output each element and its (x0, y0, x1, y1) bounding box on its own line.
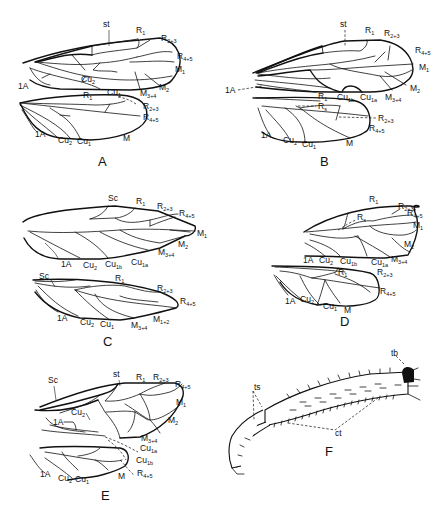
label-1a: 1A (18, 81, 29, 91)
label-c-cu1b: Cu1b (105, 259, 122, 270)
label-e-st: st (113, 369, 120, 379)
label-b-r4-5: R4+5 (415, 45, 430, 56)
label-cu1: Cu1 (107, 87, 121, 98)
label-d-r1: R1 (369, 194, 378, 205)
label-c-m2: M2 (178, 239, 188, 250)
label-hw-r2-3: R2+3 (143, 101, 158, 112)
panel-f: tb ts ct F (229, 348, 420, 474)
label-e-sc: Sc (48, 375, 59, 385)
plate-label-b: B (320, 154, 329, 169)
label-b-hw-r2-3: R2+3 (378, 113, 393, 124)
panel-d-forewing: R1 Rs R2+3 R4+5 M1 M2 M3+4 Cu1a Cu1b Cu2… (303, 194, 423, 268)
panel-e-forewing: st Sc R1 R2+3 R4+5 M1 M2 M3+4 Cu1a Cu1b … (35, 369, 190, 466)
label-ts: ts (254, 382, 261, 392)
label-c-sc: Sc (108, 193, 119, 203)
label-hw-r1: R1 (83, 90, 92, 101)
label-e-m2: M2 (168, 415, 178, 426)
label-c-hw-r4-5: R4+5 (180, 296, 195, 307)
label-e-r1: R1 (136, 372, 145, 383)
plate-label-e: E (101, 488, 110, 503)
label-cu2: Cu2 (81, 74, 95, 85)
label-r4-5: R4+5 (177, 51, 192, 62)
label-e-hw-m: M (118, 471, 125, 481)
label-tb: tb (391, 348, 398, 358)
panel-a-forewing: st R1 R2+3 R4+5 M1 M2 M3+4 Cu1 Cu2 1A (18, 19, 192, 99)
label-hw-cu1: Cu1 (77, 136, 91, 147)
label-e-hw-1a: 1A (40, 469, 51, 479)
panel-d-hindwing: R1 R2+3 R4+5 M Cu1 Cu2 1A (272, 266, 395, 315)
label-c-hw-m1-2: M1+2 (153, 314, 169, 325)
label-st: st (103, 19, 110, 29)
label-d-rs: Rs (357, 212, 366, 223)
label-c-cu1a: Cu1a (131, 257, 149, 268)
plate-label-f: F (325, 444, 333, 459)
label-e-hw-r4-5: R4+5 (137, 468, 152, 479)
label-c-r2-3: R2+3 (157, 201, 172, 212)
label-c-1a: 1A (61, 259, 72, 269)
plate-label-c: C (103, 334, 112, 349)
label-c-r4-5: R4+5 (179, 208, 194, 219)
label-m3-4: M3+4 (140, 88, 156, 99)
panel-c-forewing: Sc R1 R2+3 R4+5 M1 M2 M3+4 Cu1a Cu1b Cu2… (23, 193, 207, 271)
label-d-hw-r2-3: R2+3 (377, 267, 392, 278)
panel-e: st Sc R1 R2+3 R4+5 M1 M2 M3+4 Cu1a Cu1b … (30, 369, 190, 503)
label-d-hw-r4-5: R4+5 (380, 286, 395, 297)
label-c-cu2: Cu2 (83, 260, 97, 271)
label-b-cu1a: Cu1a (360, 92, 378, 103)
label-c-hw-r2-3: R2+3 (157, 283, 172, 294)
label-e-hw-cu2: Cu2 (58, 473, 72, 484)
label-hw-r4-5: R4+5 (143, 112, 158, 123)
panel-a: st R1 R2+3 R4+5 M1 M2 M3+4 Cu1 Cu2 1A R1… (18, 19, 192, 169)
label-d-1a: 1A (303, 255, 314, 265)
label-b-m2: M2 (410, 83, 420, 94)
label-d-m1: M1 (413, 220, 423, 231)
label-b-st: st (340, 19, 347, 29)
panel-a-hindwing: R1 R2+3 R4+5 M Cu1 Cu2 1A (20, 90, 158, 147)
label-c-hw-cu1: Cu1 (100, 319, 114, 330)
label-hw-cu2: Cu2 (58, 135, 72, 146)
plate-label-a: A (98, 154, 107, 169)
label-b-m3-4: M3+4 (385, 92, 401, 103)
label-e-r4-5: R4+5 (175, 379, 190, 390)
label-b-r1: R1 (365, 25, 374, 36)
label-e-hw-cu1: Cu1 (75, 474, 89, 485)
label-b-hw-rs: Rs (318, 101, 327, 112)
label-e-cu1a: Cu1a (140, 443, 158, 454)
panel-b-forewing: st R1 R2+3 R4+5 M1 M2 M3+4 Cu1a Cu1b 1A (225, 19, 430, 103)
label-b-hw-m: M (346, 138, 353, 148)
label-m1: M1 (175, 64, 185, 75)
label-b-m1: M1 (419, 62, 429, 73)
panel-c-hindwing: Sc R1 R2+3 R4+5 M1+2 M3+4 Cu1 Cu2 1A (33, 271, 195, 331)
label-hw-m: M (123, 133, 130, 143)
label-b-hw-cu1: Cu1 (302, 139, 316, 150)
label-r2-3: R2+3 (161, 33, 176, 44)
label-e-cu2: Cu2 (71, 407, 85, 418)
label-r1: R1 (136, 25, 145, 36)
label-hw-1a: 1A (35, 129, 46, 139)
label-b-r2-3: R2+3 (384, 28, 399, 39)
label-ct: ct (335, 428, 342, 438)
label-b-hw-1a: 1A (261, 130, 272, 140)
panel-c: Sc R1 R2+3 R4+5 M1 M2 M3+4 Cu1a Cu1b Cu2… (23, 193, 207, 349)
label-c-m1: M1 (197, 228, 207, 239)
label-d-m2: M2 (404, 239, 414, 250)
panel-b: st R1 R2+3 R4+5 M1 M2 M3+4 Cu1a Cu1b 1A (225, 19, 430, 169)
label-e-cu1b: Cu1b (136, 455, 153, 466)
panel-e-hindwing: M R4+5 Cu1 Cu2 1A (30, 446, 152, 485)
label-e-m1: M1 (176, 397, 186, 408)
label-c-hw-m3-4: M3+4 (131, 320, 147, 331)
label-b-hw-cu2: Cu2 (283, 135, 297, 146)
label-c-hw-sc: Sc (39, 271, 50, 281)
panel-d: R1 Rs R2+3 R4+5 M1 M2 M3+4 Cu1a Cu1b Cu2… (272, 194, 423, 329)
label-c-m3-4: M3+4 (158, 247, 174, 258)
plate-label-d: D (340, 314, 349, 329)
label-c-hw-1a: 1A (57, 313, 68, 323)
label-b-cu1b: Cu1b (337, 92, 354, 103)
label-b-1a: 1A (225, 85, 236, 95)
label-e-1a: 1A (53, 417, 64, 427)
wing-venation-figure: st R1 R2+3 R4+5 M1 M2 M3+4 Cu1 Cu2 1A R1… (0, 0, 447, 513)
label-b-hw-r4-5: R4+5 (369, 123, 384, 134)
label-d-hw-cu1: Cu1 (323, 301, 337, 312)
label-d-hw-1a: 1A (285, 296, 296, 306)
label-c-hw-r1: R1 (115, 273, 124, 284)
